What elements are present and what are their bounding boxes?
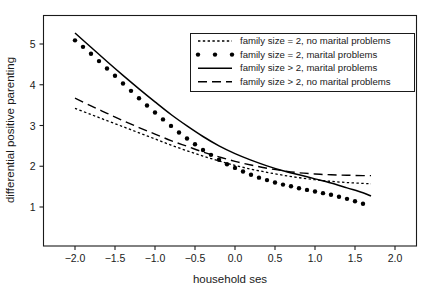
x-tick-label: 0.0 <box>228 252 243 264</box>
series-marker <box>289 184 293 188</box>
legend-item-label: family size = 2, marital problems <box>240 49 377 60</box>
series-marker <box>169 124 173 128</box>
series-marker <box>193 142 197 146</box>
y-tick-label: 3 <box>30 120 36 132</box>
x-tick-label: 1.0 <box>308 252 323 264</box>
legend-item-label: family size > 2, marital problems <box>240 62 377 73</box>
series-marker <box>97 59 101 63</box>
series-marker <box>81 45 85 49</box>
x-tick-label: −1.5 <box>105 252 126 264</box>
y-tick-label: 2 <box>30 160 36 172</box>
series-marker <box>225 162 229 166</box>
series-marker <box>321 191 325 195</box>
y-tick-label: 1 <box>30 201 36 213</box>
series-marker <box>129 89 133 93</box>
series-marker <box>145 103 149 107</box>
legend-sample-dot <box>230 52 234 56</box>
series-marker <box>233 166 237 170</box>
y-tick-label: 4 <box>30 79 36 91</box>
legend-sample-dot <box>196 52 200 56</box>
x-tick-label: −1.0 <box>145 252 166 264</box>
series-marker <box>153 110 157 114</box>
series-marker <box>273 180 277 184</box>
x-tick-label: −0.5 <box>185 252 206 264</box>
series-marker <box>361 202 365 206</box>
series-marker <box>177 130 181 134</box>
series-marker <box>257 175 261 179</box>
series-marker <box>73 38 77 42</box>
series-marker <box>241 169 245 173</box>
series-marker <box>89 52 93 56</box>
series-marker <box>265 178 269 182</box>
series-marker <box>185 136 189 140</box>
series-marker <box>305 188 309 192</box>
x-tick-label: 1.5 <box>348 252 363 264</box>
x-axis-title: household ses <box>193 273 267 285</box>
x-tick-label: 2.0 <box>388 252 403 264</box>
series-marker <box>105 66 109 70</box>
legend-item-label: family size > 2, no marital problems <box>240 76 391 87</box>
chart-canvas: −2.0−1.5−1.0−0.50.00.51.01.52.0 12345 ho… <box>0 0 437 292</box>
series-marker <box>217 158 221 162</box>
series-marker <box>345 197 349 201</box>
series-marker <box>281 182 285 186</box>
x-tick-label: 0.5 <box>268 252 283 264</box>
series-marker <box>121 81 125 85</box>
series-marker <box>313 189 317 193</box>
series-marker <box>249 173 253 177</box>
series-marker <box>337 195 341 199</box>
series-marker <box>113 74 117 78</box>
legend-sample-dot <box>213 52 217 56</box>
series-marker <box>161 117 165 121</box>
legend-item-label: family size = 2, no marital problems <box>240 35 391 46</box>
series-marker <box>137 96 141 100</box>
series-marker <box>201 148 205 152</box>
series-marker <box>353 199 357 203</box>
chart-legend: family size = 2, no marital problemsfami… <box>191 34 415 92</box>
y-axis-title: differential positive parenting <box>4 57 16 203</box>
y-tick-label: 5 <box>30 38 36 50</box>
series-marker <box>297 186 301 190</box>
x-tick-label: −2.0 <box>65 252 86 264</box>
series-marker <box>329 193 333 197</box>
chart-figure: −2.0−1.5−1.0−0.50.00.51.01.52.0 12345 ho… <box>0 0 437 292</box>
